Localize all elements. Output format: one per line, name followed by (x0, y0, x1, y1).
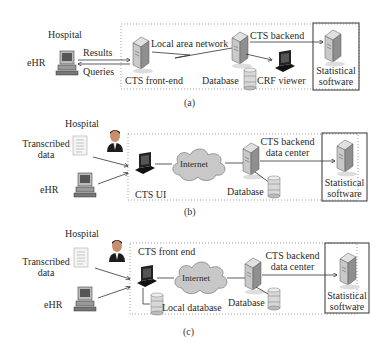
frontend-server-icon (133, 37, 153, 74)
crf-viewer-laptop-icon (275, 50, 295, 72)
statistical-software-label: Statistical software (325, 290, 369, 312)
transcribed-document-icon (74, 248, 88, 267)
person-icon (109, 240, 125, 262)
caption-a: (a) (184, 97, 195, 108)
statistical-software-label: Statistical software (313, 65, 359, 87)
lan-label: Local area network (151, 38, 228, 49)
database-icon (268, 176, 280, 198)
stats-server-icon (337, 140, 357, 177)
cts-frontend-label: CTS front-end (125, 75, 183, 86)
statistical-software-label: Statistical software (322, 177, 367, 199)
hospital-label: Hospital (48, 29, 82, 40)
cts-backend-datacenter-label: CTS backend data center (260, 250, 325, 272)
cts-backend-datacenter-label: CTS backend data center (255, 136, 320, 158)
transcribed-data-label: Transcribed data (18, 256, 74, 278)
lan-link (152, 48, 232, 58)
ehr-computer-icon (56, 51, 78, 75)
ehr-computer-icon (74, 287, 96, 311)
stats-server-icon (325, 30, 345, 67)
hospital-label: Hospital (65, 118, 99, 129)
database-label: Database (227, 186, 264, 197)
hospital-label: Hospital (65, 228, 99, 239)
ehr-label: eHR (27, 57, 45, 68)
transcribed-data-label: Transcribed data (18, 138, 74, 160)
ehr-label: eHR (44, 299, 62, 310)
cts-backend-label: CTS backend (250, 30, 304, 41)
caption-c: (c) (183, 326, 194, 337)
crf-viewer-label: CRF viewer (257, 75, 306, 86)
internet-label: Internet (180, 159, 208, 170)
caption-b: (b) (184, 206, 196, 217)
queries-label: Queries (83, 66, 114, 77)
local-database-label: Local database (162, 302, 222, 313)
backend-server-icon (232, 32, 252, 69)
cts-front-end-label: CTS front end (138, 246, 195, 257)
ehr-label: eHR (40, 184, 58, 195)
ehr-computer-icon (74, 173, 96, 197)
database-label: Database (228, 297, 265, 308)
internet-label: Internet (182, 273, 210, 284)
results-label: Results (83, 47, 112, 58)
cts-ui-laptop-icon (135, 152, 155, 174)
cts-ui-label: CTS UI (135, 189, 166, 200)
transcribed-document-icon (73, 136, 87, 155)
database-icon (268, 288, 280, 310)
cts-front-end-laptop-icon (137, 265, 157, 287)
person-icon (107, 130, 123, 152)
database-label: Database (202, 75, 239, 86)
database-icon (244, 68, 256, 90)
